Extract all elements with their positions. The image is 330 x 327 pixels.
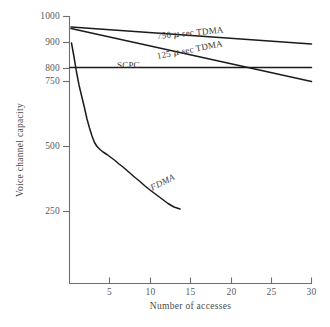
x-tick-label-5: 5 bbox=[98, 287, 121, 297]
x-tick-label-20: 20 bbox=[220, 287, 243, 297]
x-axis-title: Number of accesses bbox=[69, 301, 312, 311]
x-axis-ticks bbox=[110, 278, 312, 284]
y-tick-label-250: 250 bbox=[29, 206, 60, 216]
mu-symbol-750: μ bbox=[173, 29, 180, 40]
series-label-scpc: SCPC bbox=[117, 60, 140, 70]
mu-symbol-125: μ bbox=[172, 47, 180, 58]
x-tick-label-30: 30 bbox=[300, 287, 323, 297]
tdma-750-unit: sec bbox=[181, 27, 194, 38]
y-axis-title: Voice channel capacity bbox=[15, 85, 25, 215]
y-tick-label-900: 900 bbox=[29, 37, 60, 47]
y-axis-ticks bbox=[63, 17, 70, 212]
y-tick-label-800: 800 bbox=[29, 63, 60, 73]
x-tick-label-10: 10 bbox=[139, 287, 162, 297]
y-tick-label-500: 500 bbox=[29, 141, 60, 151]
x-tick-label-25: 25 bbox=[260, 287, 283, 297]
x-tick-label-15: 15 bbox=[179, 287, 202, 297]
axis-lines bbox=[69, 16, 312, 284]
tdma-750-value: 750 bbox=[157, 30, 172, 41]
y-tick-label-1000: 1000 bbox=[29, 11, 60, 21]
chart-figure: 1000 900 800 750 500 250 5 10 15 20 25 3… bbox=[0, 0, 330, 327]
y-tick-label-750: 750 bbox=[29, 76, 60, 86]
